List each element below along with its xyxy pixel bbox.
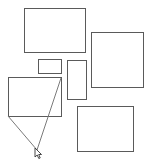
rectangle-left[interactable] bbox=[8, 77, 62, 117]
line-from-bottom-left bbox=[8, 116, 37, 150]
rectangle-right[interactable] bbox=[91, 32, 144, 88]
rectangle-small[interactable] bbox=[38, 59, 62, 74]
rectangle-tall[interactable] bbox=[67, 60, 87, 100]
rectangle-bottom-right[interactable] bbox=[77, 106, 134, 152]
arrow-cursor-icon bbox=[35, 148, 42, 159]
drawing-canvas[interactable] bbox=[0, 0, 148, 165]
rectangle-top[interactable] bbox=[24, 8, 86, 53]
